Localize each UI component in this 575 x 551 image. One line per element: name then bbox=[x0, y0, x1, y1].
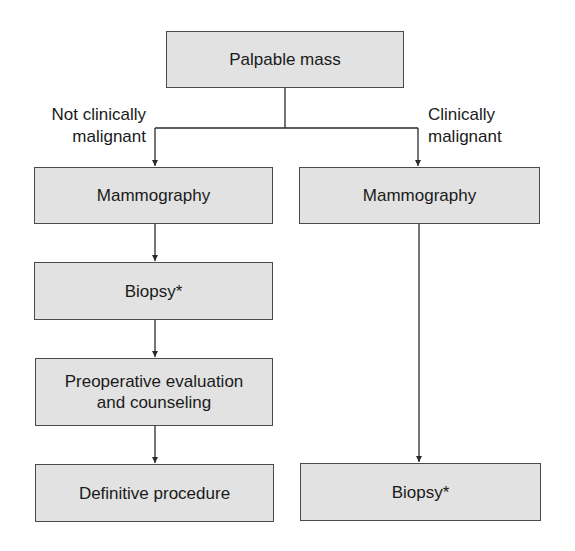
branch-label-line1: Not clinically bbox=[30, 104, 146, 126]
node-label: Biopsy* bbox=[125, 281, 183, 302]
node-label: Definitive procedure bbox=[79, 483, 230, 504]
node-preoperative-evaluation: Preoperative evaluation and counseling bbox=[35, 358, 273, 426]
node-left-biopsy: Biopsy* bbox=[34, 262, 273, 320]
node-right-mammography: Mammography bbox=[299, 167, 540, 224]
node-label-line1: Preoperative evaluation bbox=[65, 371, 244, 392]
node-label: Mammography bbox=[97, 185, 210, 206]
node-label: Mammography bbox=[363, 185, 476, 206]
node-label: Biopsy* bbox=[392, 482, 450, 503]
branch-label-line2: malignant bbox=[30, 126, 146, 148]
node-definitive-procedure: Definitive procedure bbox=[35, 464, 274, 522]
branch-label-clinically-malignant: Clinically malignant bbox=[428, 104, 548, 148]
node-right-biopsy: Biopsy* bbox=[300, 463, 541, 521]
node-palpable-mass: Palpable mass bbox=[166, 31, 404, 88]
branch-label-not-clinically-malignant: Not clinically malignant bbox=[30, 104, 146, 148]
branch-label-line1: Clinically bbox=[428, 104, 548, 126]
node-label: Palpable mass bbox=[229, 49, 341, 70]
node-label-line2: and counseling bbox=[97, 392, 211, 413]
branch-label-line2: malignant bbox=[428, 126, 548, 148]
node-left-mammography: Mammography bbox=[34, 167, 273, 224]
